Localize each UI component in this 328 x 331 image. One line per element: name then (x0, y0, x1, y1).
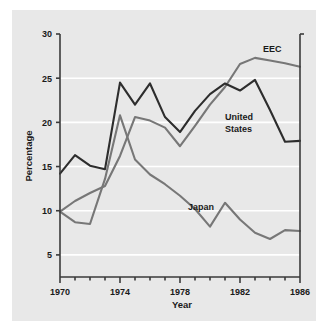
series-label-united-states-line2: States (225, 124, 252, 134)
y-tick-label: 25 (42, 74, 52, 84)
x-tick-label: 1982 (230, 287, 250, 297)
x-tick-label: 1974 (110, 287, 130, 297)
series-lines (60, 58, 300, 239)
axis-lines (56, 34, 304, 277)
line-chart: 51015202530 19701974197819821986 Percent… (0, 0, 328, 331)
x-tick-label: 1978 (170, 287, 190, 297)
y-tick-label: 10 (42, 206, 52, 216)
y-tick-label: 20 (42, 118, 52, 128)
x-tick-label: 1986 (290, 287, 310, 297)
series-label-eec: EEC (263, 44, 282, 54)
x-axis-tick-labels: 19701974197819821986 (50, 287, 310, 297)
chart-figure: 51015202530 19701974197819821986 Percent… (0, 0, 328, 331)
y-tick-label: 15 (42, 162, 52, 172)
axis-ticks (56, 78, 300, 283)
y-axis-title: Percentage (23, 130, 34, 181)
series-label-united-states-line1: United (225, 112, 253, 122)
x-axis-title: Year (172, 299, 192, 310)
y-tick-label: 30 (42, 29, 52, 39)
y-tick-label: 5 (47, 250, 52, 260)
y-axis-tick-labels: 51015202530 (42, 29, 52, 260)
series-label-japan: Japan (188, 202, 214, 212)
x-tick-label: 1970 (50, 287, 70, 297)
